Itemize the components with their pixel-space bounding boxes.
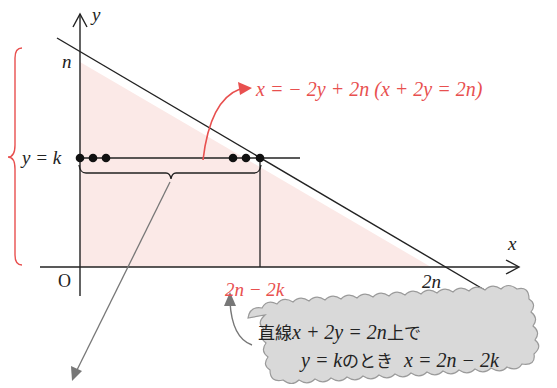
pointer-arrow-icon: [71, 366, 82, 381]
two-n-tick-label: 2n: [422, 272, 441, 291]
callout-line1-math: x + 2y = 2n: [292, 321, 387, 343]
line-equation: x = − 2y + 2n (x + 2y = 2n): [256, 79, 482, 99]
intersection-x-label: 2n − 2k: [225, 280, 284, 299]
callout-line1-suffix: 上で: [387, 323, 421, 343]
equation-arrow-icon: [238, 82, 252, 95]
callout-line-1: 直線x + 2y = 2n上で: [258, 322, 421, 342]
origin-label: O: [58, 272, 71, 290]
callout-line2-text: のとき: [342, 351, 393, 371]
left-brace-red: [8, 48, 22, 265]
n-tick-label: n: [62, 52, 72, 71]
y-axis-label: y: [92, 5, 100, 24]
callout-line2-math-b: x = 2n − 2k: [404, 349, 499, 371]
callout-pointer-curve: [230, 302, 252, 345]
callout-line1-prefix: 直線: [258, 323, 292, 343]
x-axis-label: x: [508, 234, 516, 253]
y-equals-k-label: y = k: [22, 148, 61, 167]
callout-line-2: y = kのとき x = 2n − 2k: [301, 350, 499, 370]
callout-line2-math-a: y = k: [301, 349, 342, 371]
